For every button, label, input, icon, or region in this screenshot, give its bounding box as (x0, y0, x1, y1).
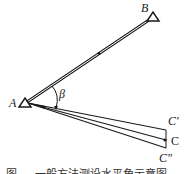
label-b: B (141, 1, 149, 15)
triangle-station-b-icon (147, 12, 159, 21)
diagram-canvas: A B β C' C C" 图 — 一般方法测设水平角示意图 (0, 0, 186, 174)
label-beta: β (58, 87, 65, 101)
label-c-double-prime: C" (159, 151, 173, 165)
label-c-prime: C' (168, 114, 179, 128)
figure-caption: 图 — 一般方法测设水平角示意图 (6, 167, 167, 174)
line-ac (28, 103, 166, 140)
label-c: C (171, 134, 179, 148)
angle-arc (52, 86, 57, 108)
line-ab (27, 18, 152, 102)
label-a: A (8, 96, 17, 110)
point-c-marker (163, 138, 166, 141)
